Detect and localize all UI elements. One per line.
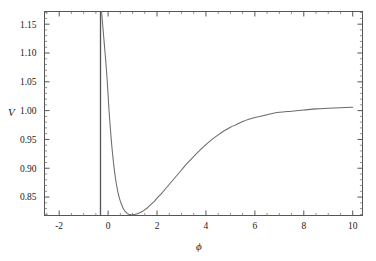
y-tick-label: 1.15 xyxy=(20,20,37,30)
x-tick-label: 6 xyxy=(252,221,257,231)
x-tick-label: -2 xyxy=(55,221,63,231)
y-tick-label: 1.05 xyxy=(20,77,37,87)
x-axis-title: ϕ xyxy=(196,240,202,252)
y-tick-label: 1.00 xyxy=(20,106,37,116)
figure-container: -20246810 1.151.101.051.000.950.900.85 V… xyxy=(0,0,376,261)
x-tick-label: 4 xyxy=(204,221,209,231)
x-tick-label: 10 xyxy=(348,221,358,231)
x-tick-label: 8 xyxy=(301,221,306,231)
y-tick-label: 0.95 xyxy=(20,135,37,145)
y-tick-label: 0.90 xyxy=(20,164,37,174)
x-tick-label: 0 xyxy=(106,221,111,231)
y-tick-label: 1.10 xyxy=(20,48,37,58)
x-tick-label: 2 xyxy=(155,221,160,231)
potential-plot: -20246810 1.151.101.051.000.950.900.85 V… xyxy=(0,0,376,261)
y-tick-label: 0.85 xyxy=(20,192,37,202)
